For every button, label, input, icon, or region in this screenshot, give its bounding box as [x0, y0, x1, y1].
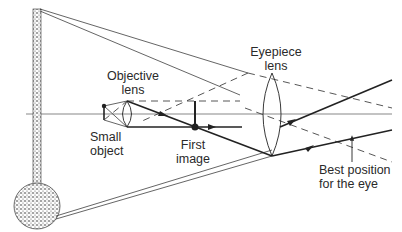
label-eyepiece-lens: Eyepiece lens	[241, 45, 311, 73]
ray-eyepiece-out-bottom	[272, 130, 392, 156]
construction-line-bottom-2	[56, 156, 272, 219]
label-objective-lens: Objective lens	[98, 69, 168, 97]
label-best-position: Best position for the eye	[319, 163, 391, 191]
microscope-ray-diagram	[0, 0, 402, 232]
construction-line-top-1	[40, 9, 248, 73]
eyepiece-lens-icon	[263, 73, 281, 156]
first-image-icon	[192, 101, 199, 131]
construction-line-bottom-1	[56, 150, 272, 216]
label-first-image: First image	[168, 138, 218, 166]
final-image-icon	[14, 9, 60, 229]
ray-eyepiece-out-top	[280, 80, 392, 127]
label-small-object: Small object	[90, 130, 123, 158]
